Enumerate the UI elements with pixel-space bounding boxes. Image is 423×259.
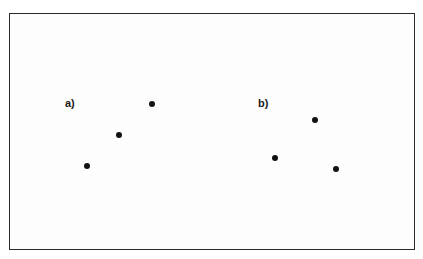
panel-a-label: a) (65, 98, 75, 109)
panel-b-point-2 (272, 155, 278, 161)
panel-a-point-2 (116, 132, 122, 138)
panel-a-point-3 (84, 163, 90, 169)
panel-a-point-1 (149, 101, 155, 107)
panel-b-point-1 (312, 117, 318, 123)
panel-b-label: b) (258, 98, 268, 109)
panel-b-point-3 (333, 166, 339, 172)
diagram-frame (9, 13, 415, 250)
